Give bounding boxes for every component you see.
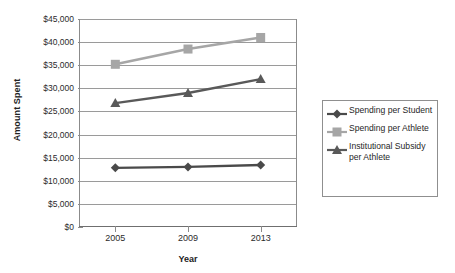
chart-legend: Spending per StudentSpending per Athlete…: [322, 100, 438, 197]
square-marker: [333, 128, 342, 137]
x-axis-title: Year: [79, 254, 297, 264]
x-tick-mark: [115, 226, 116, 232]
gridline: [80, 111, 296, 112]
legend-diamond-icon: [326, 106, 348, 118]
x-tick-mark: [261, 226, 262, 232]
y-tick-label: $35,000: [8, 60, 74, 70]
line-chart: Amount Spent $0$5,000$10,000$15,000$20,0…: [0, 0, 455, 273]
y-tick-label: $15,000: [8, 153, 74, 163]
plot-area: [79, 19, 297, 227]
legend-square-icon: [326, 124, 348, 136]
x-tick-label: 2013: [231, 233, 291, 243]
y-axis-ticks: $0$5,000$10,000$15,000$20,000$25,000$30,…: [4, 19, 74, 227]
legend-label: Spending per Student: [348, 105, 432, 116]
x-tick-label: 2009: [158, 233, 218, 243]
y-tick-label: $5,000: [8, 199, 74, 209]
y-tick-label: $10,000: [8, 176, 74, 186]
gridline: [80, 158, 296, 159]
y-tick-label: $25,000: [8, 106, 74, 116]
legend-item[interactable]: Spending per Student: [326, 105, 435, 118]
gridline: [80, 181, 296, 182]
legend-label: Spending per Athlete: [348, 123, 429, 134]
gridline: [80, 135, 296, 136]
y-tick-label: $45,000: [8, 14, 74, 24]
gridline: [80, 65, 296, 66]
y-tick-label: $0: [8, 222, 74, 232]
gridline: [80, 19, 296, 20]
y-tick-label: $20,000: [8, 130, 74, 140]
gridline: [80, 88, 296, 89]
legend-label: Institutional Subsidy per Athlete: [348, 141, 435, 162]
gridline: [80, 204, 296, 205]
x-tick-label: 2005: [85, 233, 145, 243]
y-tick-label: $40,000: [8, 37, 74, 47]
legend-item[interactable]: Spending per Athlete: [326, 123, 435, 136]
legend-triangle-icon: [326, 142, 348, 154]
legend-item[interactable]: Institutional Subsidy per Athlete: [326, 141, 435, 162]
y-tick-label: $30,000: [8, 83, 74, 93]
diamond-marker: [333, 110, 342, 119]
gridline: [80, 42, 296, 43]
y-tick-mark: [78, 227, 83, 228]
x-tick-mark: [188, 226, 189, 232]
